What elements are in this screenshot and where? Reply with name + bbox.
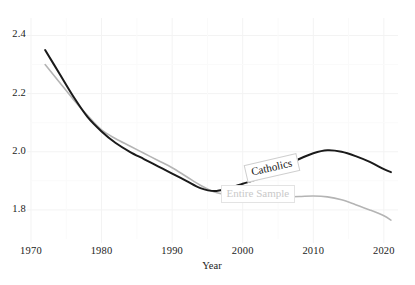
plot-canvas xyxy=(0,0,415,285)
gridlines xyxy=(27,18,398,243)
x-axis-title: Year xyxy=(182,260,242,271)
x-tick-2010: 2010 xyxy=(291,245,335,256)
x-tick-2020: 2020 xyxy=(362,245,406,256)
y-tick-2.4: 2.4 xyxy=(1,28,26,39)
x-tick-2000: 2000 xyxy=(221,245,265,256)
series-label-entire-sample: Entire Sample xyxy=(221,185,296,203)
x-tick-1980: 1980 xyxy=(80,245,124,256)
y-tick-1.8: 1.8 xyxy=(1,203,26,214)
series-lines xyxy=(45,50,391,220)
x-tick-1990: 1990 xyxy=(150,245,194,256)
series-line-entire-sample xyxy=(45,65,391,221)
series-line-catholics xyxy=(45,50,391,191)
fertility-line-chart: 1.82.02.22.4 197019801990200020102020 Ye… xyxy=(0,0,415,285)
y-tick-2.2: 2.2 xyxy=(1,87,26,98)
x-tick-1970: 1970 xyxy=(9,245,53,256)
y-tick-2.0: 2.0 xyxy=(1,145,26,156)
